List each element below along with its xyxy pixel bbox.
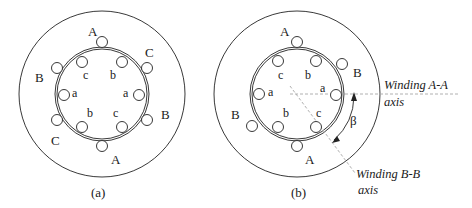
rotor-label-b-upper: b	[110, 68, 116, 82]
arrow-up-icon	[351, 92, 357, 101]
stator-label-B-right: B	[161, 107, 170, 122]
rotor-label-b-lower: b	[87, 106, 93, 120]
figure-b: β A B B A c b a a b c Winding A-A	[214, 11, 458, 200]
arrow-down-icon	[332, 136, 340, 143]
stator-label-B-left: B	[35, 70, 44, 85]
stator-label-C-left: C	[51, 133, 60, 148]
rotor-label-a-right-b: a	[320, 81, 326, 95]
winding-b-axis-label-line2: axis	[358, 183, 378, 197]
stator-label-A-bottom: A	[111, 152, 121, 167]
stator-label-A-top-b: A	[280, 24, 290, 39]
stator-label-B-left-b: B	[231, 107, 240, 122]
caption-b: (b)	[291, 185, 306, 200]
rotor-label-c-lower: c	[113, 106, 118, 120]
stator-label-A-bottom-b: A	[305, 152, 315, 167]
winding-a-axis-label-line2: axis	[384, 95, 404, 109]
rotor-label-b-lower-b: b	[283, 106, 289, 120]
stator-label-B-right-b: B	[353, 65, 362, 80]
stator-label-A-top: A	[88, 24, 98, 39]
rotor-label-c-upper-b: c	[278, 68, 283, 82]
figure-a: A C B A C B c b a a b c (a)	[19, 11, 185, 200]
rotor-label-c-upper: c	[83, 68, 88, 82]
stator-label-C-right: C	[145, 45, 154, 60]
winding-b-axis-line	[290, 86, 355, 173]
caption-a: (a)	[91, 185, 105, 200]
rotor-label-a-left-b: a	[268, 85, 274, 99]
winding-b-axis-label-line1: Winding B-B	[356, 167, 421, 181]
rotor-label-a-left: a	[72, 86, 78, 100]
rotor-label-c-lower-b: c	[316, 106, 321, 120]
rotor-label-b-upper-b: b	[305, 68, 311, 82]
angle-beta-label: β	[350, 113, 357, 128]
rotor-label-a-right: a	[123, 86, 129, 100]
winding-a-axis-label-line1: Winding A-A	[384, 78, 448, 92]
stator-outer-circle	[19, 11, 185, 177]
